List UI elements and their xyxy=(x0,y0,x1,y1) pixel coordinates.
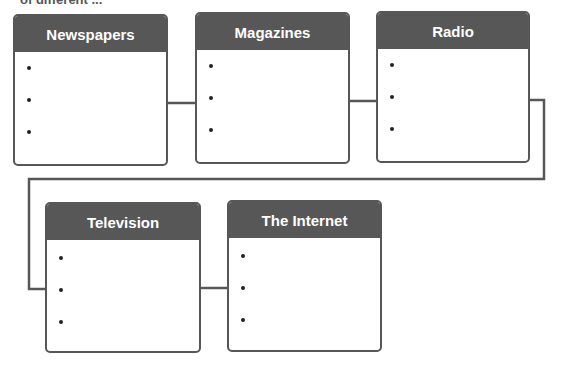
box-header: The Internet xyxy=(229,202,380,238)
bullet-point[interactable] xyxy=(241,286,245,290)
box-magazines: Magazines xyxy=(195,12,350,164)
bullet-point[interactable] xyxy=(59,256,63,260)
bullet-point[interactable] xyxy=(241,318,245,322)
bullet-point[interactable] xyxy=(59,320,63,324)
box-header: Newspapers xyxy=(15,16,166,52)
bullet-point[interactable] xyxy=(59,288,63,292)
bullet-point[interactable] xyxy=(27,98,31,102)
box-the-internet: The Internet xyxy=(227,200,382,352)
box-newspapers: Newspapers xyxy=(13,14,168,166)
bullet-point[interactable] xyxy=(209,96,213,100)
box-header: Television xyxy=(47,204,199,240)
bullet-point[interactable] xyxy=(27,130,31,134)
bullet-point[interactable] xyxy=(209,128,213,132)
box-header: Radio xyxy=(378,13,528,49)
bullet-point[interactable] xyxy=(27,66,31,70)
bullet-point[interactable] xyxy=(390,63,394,67)
bullet-point[interactable] xyxy=(241,254,245,258)
box-header: Magazines xyxy=(197,14,348,50)
bullet-point[interactable] xyxy=(209,64,213,68)
bullet-point[interactable] xyxy=(390,127,394,131)
box-television: Television xyxy=(45,202,201,353)
bullet-point[interactable] xyxy=(390,95,394,99)
box-radio: Radio xyxy=(376,11,530,163)
